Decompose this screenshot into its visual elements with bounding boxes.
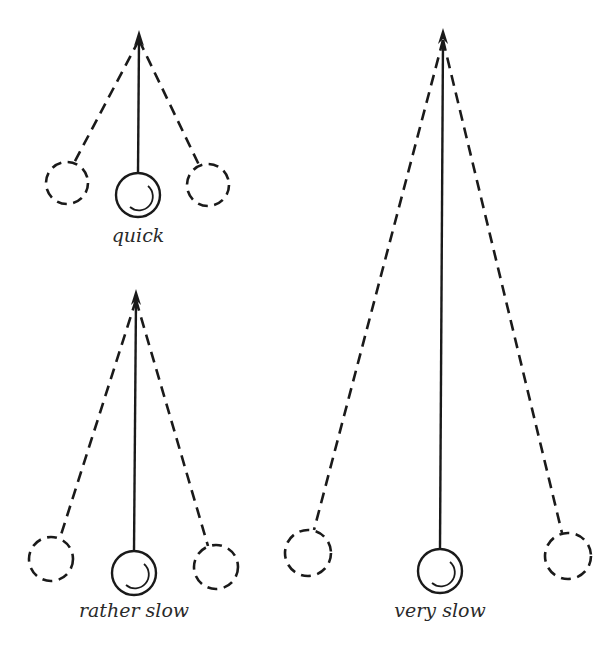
bob-extreme-left <box>29 537 73 581</box>
pendulum-diagram: quick rather slow very slow <box>0 0 614 647</box>
label-very-slow: very slow <box>394 599 485 621</box>
pendulum-rather-slow: rather slow <box>29 289 238 621</box>
swing-path-left <box>74 40 139 163</box>
label-quick: quick <box>112 224 165 246</box>
label-rather-slow: rather slow <box>79 599 189 621</box>
bob-extreme-right <box>187 164 229 206</box>
pendulum-rod <box>440 40 443 549</box>
pendulum-quick: quick <box>46 30 229 246</box>
swing-path-right <box>139 40 199 165</box>
bob-extreme-left <box>46 162 88 204</box>
pendulum-rod <box>138 40 139 173</box>
pendulum-very-slow: very slow <box>285 28 591 621</box>
swing-path-right <box>443 40 562 533</box>
swing-path-right <box>136 300 208 546</box>
bob-extreme-right <box>194 545 238 589</box>
bob-extreme-right <box>545 533 591 579</box>
pendulum-rod <box>134 300 136 551</box>
swing-path-left <box>314 40 443 530</box>
bob-extreme-left <box>285 530 331 576</box>
swing-path-left <box>60 300 136 538</box>
